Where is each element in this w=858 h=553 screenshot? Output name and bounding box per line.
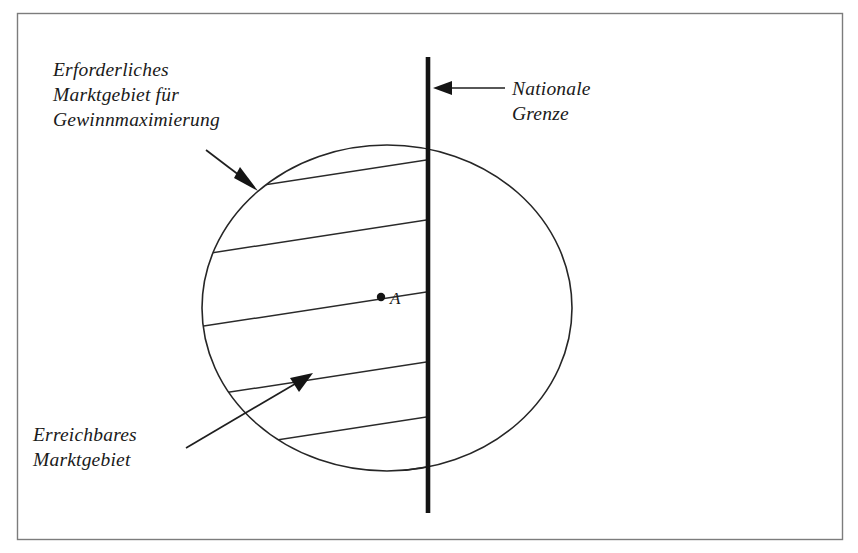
national-border-label-line2: Grenze	[512, 103, 569, 124]
reachable-market-area-label-line2: Marktgebiet	[32, 449, 131, 470]
reachable-market-area-label: Erreichbares Marktgebiet	[32, 424, 137, 470]
required-market-area-label-line3: Gewinnmaximierung	[53, 109, 220, 130]
national-border-label-line1: Nationale	[511, 78, 591, 99]
hatch-line	[60, 158, 440, 216]
arrow-head	[234, 167, 258, 191]
required-market-area-label-line1: Erforderliches	[52, 59, 169, 80]
arrow-head	[290, 373, 313, 392]
required-market-area-label: Erforderliches Marktgebiet für Gewinnmax…	[52, 59, 220, 130]
required-market-area-circle	[202, 145, 572, 471]
reachable-market-area-label-line1: Erreichbares	[32, 424, 137, 445]
center-point-dot	[377, 293, 385, 301]
required-market-area-label-line2: Marktgebiet für	[52, 84, 179, 105]
hatch-line	[60, 360, 440, 418]
required-market-area-arrow	[206, 150, 258, 191]
diagram-svg: A Erforderliches Marktgebiet für Gewinnm…	[0, 0, 858, 553]
national-border-label: Nationale Grenze	[511, 78, 591, 124]
national-border-arrow	[433, 81, 505, 95]
hatch-line	[60, 218, 440, 276]
hatch-line	[60, 465, 440, 523]
center-point-label: A	[389, 289, 401, 308]
arrow-head	[433, 81, 452, 95]
figure-canvas: A Erforderliches Marktgebiet für Gewinnm…	[0, 0, 858, 553]
